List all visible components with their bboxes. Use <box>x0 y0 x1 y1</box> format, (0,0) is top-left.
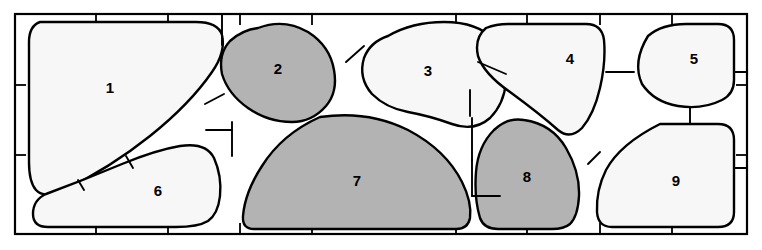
grain-label-2: 2 <box>274 60 282 77</box>
grain-label-1: 1 <box>106 79 114 96</box>
grain-5 <box>638 24 734 107</box>
grain-label-6: 6 <box>154 182 162 199</box>
grain-diagram-canvas: 123456789 <box>0 0 762 250</box>
microstructure-figure: 123456789 <box>0 0 762 250</box>
grain-label-8: 8 <box>523 168 531 185</box>
grain-label-9: 9 <box>672 172 680 189</box>
grain-label-5: 5 <box>690 50 698 67</box>
grain-label-7: 7 <box>353 172 361 189</box>
grain-label-3: 3 <box>424 62 432 79</box>
grain-label-4: 4 <box>566 50 575 67</box>
